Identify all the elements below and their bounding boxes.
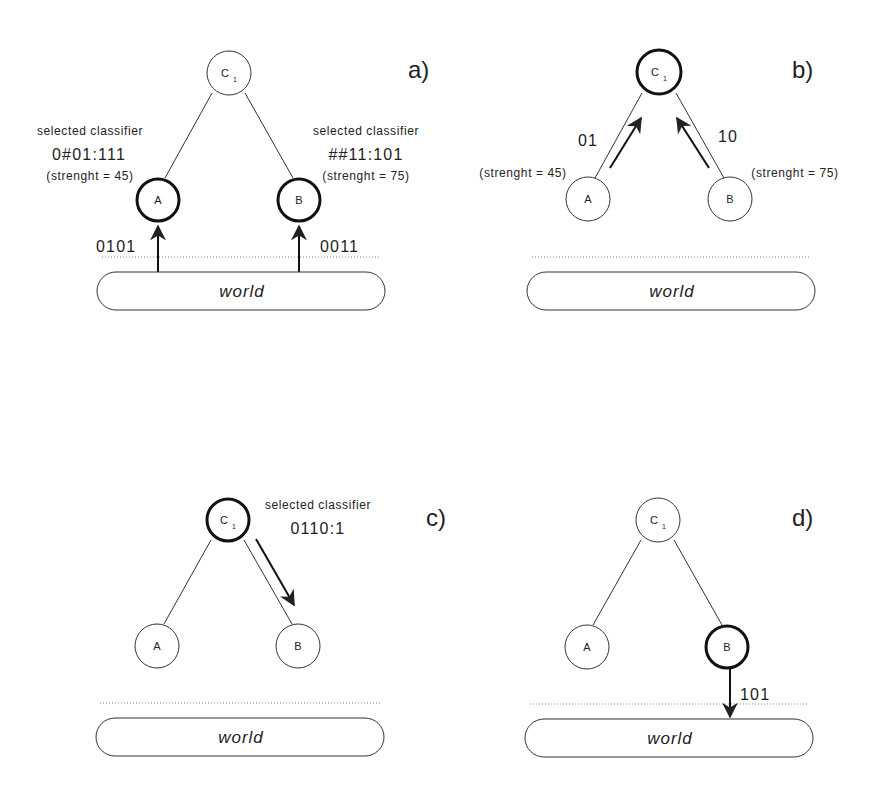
input-message-left: 0101 [96, 238, 136, 255]
panel-c: c) C 1 A B selected classifier 0110:1 wo… [96, 498, 446, 756]
svg-text:A: A [583, 641, 591, 653]
world-box: world [97, 272, 385, 310]
svg-text:C: C [220, 514, 228, 526]
svg-text:B: B [294, 640, 301, 652]
svg-text:A: A [154, 194, 162, 206]
svg-text:B: B [726, 193, 733, 205]
edge-c1-a [593, 540, 641, 625]
annotation-title-right: selected classifier [313, 124, 419, 138]
node-c1: C 1 [637, 50, 681, 94]
input-message-right: 0011 [320, 238, 359, 255]
node-b: B [278, 179, 320, 221]
edge-c1-b [674, 540, 722, 625]
panel-label-b: b) [792, 56, 813, 83]
node-a: A [135, 624, 179, 668]
world-box: world [527, 272, 815, 310]
node-b: B [276, 624, 320, 668]
node-c1: C 1 [636, 498, 680, 542]
node-a: A [565, 625, 609, 669]
strength-left: (strenght = 45) [46, 169, 133, 183]
world-box: world [96, 718, 384, 756]
strength-right: (strenght = 75) [322, 169, 409, 183]
edge-c1-a [164, 540, 211, 624]
node-b: B [708, 177, 752, 221]
svg-text:world: world [219, 282, 265, 301]
classifier-code: 0110:1 [291, 520, 346, 537]
svg-text:1: 1 [662, 523, 666, 530]
message-left: 01 [578, 132, 598, 149]
svg-text:world: world [218, 728, 264, 747]
node-c1: C 1 [207, 499, 249, 541]
world-box: world [525, 719, 813, 757]
svg-text:C: C [221, 67, 229, 79]
edge-c1-b [245, 93, 293, 178]
svg-text:1: 1 [233, 76, 237, 83]
edge-c1-a [595, 93, 642, 178]
node-a: A [137, 179, 179, 221]
output-message: 101 [740, 686, 770, 703]
svg-text:1: 1 [663, 75, 667, 82]
classifier-code-left: 0#01:111 [52, 146, 126, 163]
svg-text:world: world [647, 729, 693, 748]
panel-b: b) C 1 A B 01 10 (strenght = 45) (streng… [479, 50, 838, 310]
edge-c1-b [244, 540, 292, 624]
node-c1: C 1 [207, 51, 251, 95]
node-b: B [706, 626, 748, 668]
svg-text:A: A [584, 193, 592, 205]
svg-text:A: A [153, 640, 161, 652]
svg-text:B: B [723, 641, 730, 653]
svg-text:world: world [649, 282, 695, 301]
panel-label-d: d) [792, 504, 813, 531]
node-a: A [566, 177, 610, 221]
svg-text:B: B [295, 194, 302, 206]
message-right: 10 [718, 128, 738, 145]
classifier-hierarchy-figure: a) C 1 A B selected classifier 0#01:111 … [0, 0, 877, 806]
edge-c1-a [165, 93, 212, 178]
annotation-title-left: selected classifier [37, 124, 143, 138]
strength-left: (strenght = 45) [479, 166, 566, 180]
svg-text:C: C [651, 66, 659, 78]
panel-a: a) C 1 A B selected classifier 0#01:111 … [37, 51, 429, 310]
svg-text:1: 1 [232, 523, 236, 530]
strength-right: (strenght = 75) [751, 166, 838, 180]
classifier-code-right: ##11:101 [328, 146, 403, 163]
svg-text:C: C [650, 514, 658, 526]
edge-c1-b [676, 93, 724, 178]
panel-label-a: a) [408, 56, 429, 83]
panel-d: d) C 1 A B 101 world [525, 498, 813, 757]
panel-label-c: c) [426, 504, 446, 531]
annotation-title: selected classifier [265, 498, 371, 512]
